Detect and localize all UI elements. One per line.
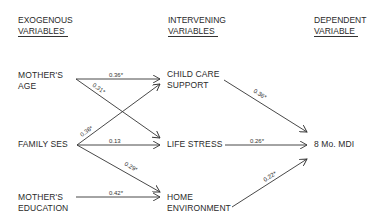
node-mothers-age-line1: MOTHER'S — [18, 70, 63, 81]
node-8mo-mdi-line1: 8 Mo. MDI — [314, 139, 354, 150]
edge-ses-childcare — [77, 84, 160, 145]
node-mothers-age: MOTHER'S AGE — [18, 70, 63, 91]
edge-childcare-mdi — [224, 80, 307, 132]
node-mothers-age-line2: AGE — [18, 81, 63, 92]
coef-ses-lifestress: 0.13 — [109, 138, 121, 144]
node-family-ses: FAMILY SES — [18, 139, 68, 150]
node-home-environment-line2: ENVIRONMENT — [167, 203, 231, 214]
node-8mo-mdi: 8 Mo. MDI — [314, 139, 354, 150]
node-life-stress-line1: LIFE STRESS — [167, 139, 222, 150]
node-home-environment: HOME ENVIRONMENT — [167, 192, 231, 213]
edge-ses-home — [77, 145, 160, 192]
node-mothers-education-line1: MOTHER'S — [18, 192, 68, 203]
coef-lifestress-mdi: 0.26* — [250, 138, 265, 144]
coef-education-home: 0.42* — [109, 190, 124, 196]
path-edges: 0.36* 0.31* 0.36* 0.13 0.29* 0.42* 0.36*… — [0, 0, 387, 221]
coef-age-lifestress: 0.31* — [91, 82, 106, 95]
edge-home-mdi — [232, 159, 307, 207]
coef-home-mdi: 0.22* — [262, 170, 278, 183]
coef-age-childcare: 0.36* — [109, 72, 124, 78]
node-life-stress: LIFE STRESS — [167, 139, 222, 150]
coef-ses-childcare: 0.36* — [79, 124, 94, 137]
node-child-care-support-line2: SUPPORT — [167, 80, 219, 91]
node-home-environment-line1: HOME — [167, 192, 231, 203]
node-family-ses-line1: FAMILY SES — [18, 139, 68, 150]
node-child-care-support: CHILD CARE SUPPORT — [167, 69, 219, 90]
node-mothers-education: MOTHER'S EDUCATION — [18, 192, 68, 213]
node-mothers-education-line2: EDUCATION — [18, 203, 68, 214]
coef-ses-home: 0.29* — [124, 161, 140, 174]
coef-childcare-mdi: 0.36* — [252, 88, 268, 101]
node-child-care-support-line1: CHILD CARE — [167, 69, 219, 80]
